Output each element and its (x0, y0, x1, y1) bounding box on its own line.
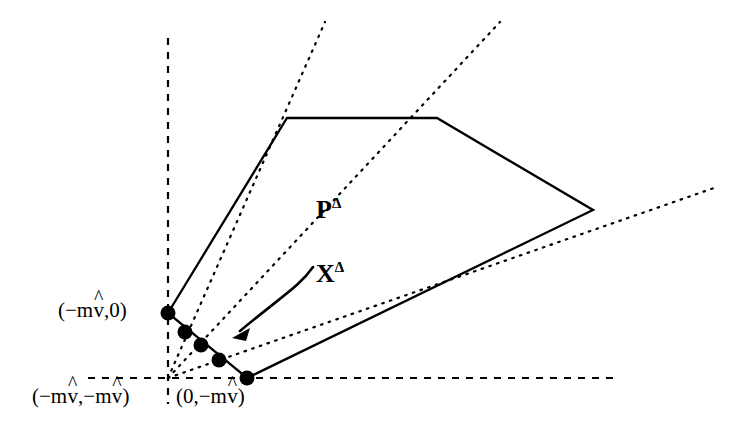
label-origin-prefix: (−m (32, 384, 67, 408)
label-origin-suffix: ) (122, 384, 129, 408)
label-x-delta-base: X (316, 259, 335, 288)
label-left-vertex-prefix: (−m (58, 298, 93, 322)
label-left-vertex-coord: (−m^v,0) (58, 300, 127, 321)
polygon-p-delta (168, 118, 593, 378)
hat-accent-icon: ^ (67, 374, 78, 394)
label-p-delta: PΔ (316, 196, 341, 223)
label-p-delta-superscript: Δ (332, 195, 341, 211)
label-origin-hat-var-2: ^v (112, 386, 123, 407)
label-bottom-hat-var: ^v (227, 386, 238, 407)
label-origin-corner-coord: (−m^v,−m^v) (32, 386, 129, 407)
label-origin-hat-var-1: ^v (67, 386, 78, 407)
label-bottom-vertex-coord: (0,−m^v) (176, 386, 245, 407)
label-left-vertex-hat-var: ^v (93, 300, 104, 321)
label-bottom-suffix: ) (238, 384, 245, 408)
lattice-point (212, 353, 227, 368)
lattice-point (194, 338, 209, 353)
lattice-point (161, 306, 176, 321)
label-origin-middle: ,−m (78, 384, 111, 408)
label-left-vertex-suffix: ,0) (104, 298, 127, 322)
label-x-delta: XΔ (316, 260, 344, 287)
x-delta-pointer-arrow (232, 267, 313, 341)
lattice-point (178, 325, 193, 340)
hat-accent-icon: ^ (227, 374, 238, 394)
dotted-ray-group (168, 22, 714, 378)
label-p-delta-base: P (316, 195, 332, 224)
hat-accent-icon: ^ (93, 288, 104, 308)
hat-accent-icon: ^ (112, 374, 123, 394)
label-bottom-prefix: (0,−m (176, 384, 227, 408)
label-x-delta-superscript: Δ (335, 259, 344, 275)
